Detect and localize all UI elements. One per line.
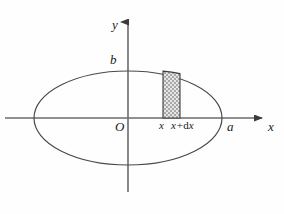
differential-strip-group — [163, 71, 180, 118]
y-axis-label: y — [112, 18, 118, 31]
strip-right-prefix-text: x+ — [171, 119, 183, 131]
semi-minor-axis-label: b — [110, 53, 117, 66]
figure-canvas: y b O a x x x+dx — [0, 0, 284, 214]
x-axis-label: x — [268, 120, 274, 133]
origin-label: O — [115, 120, 124, 133]
strip-left-edge-label: x — [159, 120, 164, 131]
differential-strip-shape — [163, 71, 180, 118]
semi-major-axis-label: a — [227, 120, 234, 133]
strip-right-edge-label: x+dx — [171, 120, 194, 131]
differential-variable-text: x — [189, 119, 194, 131]
ellipse-diagram-svg — [0, 0, 284, 214]
axes-group — [5, 22, 262, 192]
